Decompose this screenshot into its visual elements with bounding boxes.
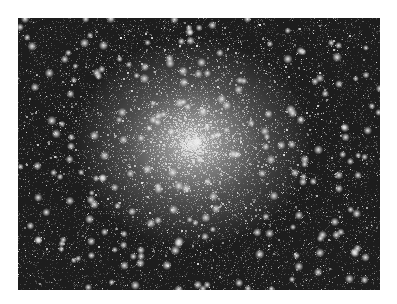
star-field — [18, 18, 380, 290]
star-cluster-photo: Dense globular star cluster with bright … — [18, 18, 380, 290]
